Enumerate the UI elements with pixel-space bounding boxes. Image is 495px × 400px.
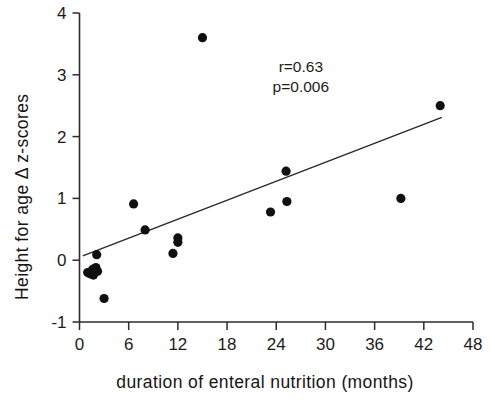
data-point [168, 249, 177, 258]
y-tick-label: -1 [51, 313, 66, 332]
x-tick-label: 18 [218, 335, 237, 354]
data-point [92, 250, 101, 259]
y-tick-label: 0 [57, 251, 66, 270]
chart-canvas: Height for age Δ z-scores duration of en… [0, 0, 495, 400]
y-tick-label: 1 [57, 189, 66, 208]
x-tick-label: 0 [75, 335, 84, 354]
y-axis-ticks: -101234 [51, 4, 79, 332]
data-point [140, 225, 149, 234]
y-tick-label: 4 [57, 4, 66, 23]
data-point [93, 267, 102, 276]
x-tick-label: 12 [168, 335, 187, 354]
x-tick-label: 6 [124, 335, 133, 354]
scatter-plot-figure: Height for age Δ z-scores duration of en… [0, 0, 495, 400]
correlation-coefficient: r=0.63 [279, 58, 323, 75]
data-point [129, 199, 138, 208]
statistics-annotations: r=0.63p=0.006 [273, 58, 329, 95]
data-point [436, 101, 445, 110]
y-tick-label: 3 [57, 66, 66, 85]
data-point [281, 167, 290, 176]
data-point [198, 33, 207, 42]
data-point [396, 194, 405, 203]
x-tick-label: 30 [316, 335, 335, 354]
data-point-series [83, 33, 445, 303]
regression-line [83, 117, 442, 255]
x-axis-title: duration of enteral nutrition (months) [116, 372, 413, 392]
data-point [266, 207, 275, 216]
data-point [173, 238, 182, 247]
regression-line-segment [83, 117, 442, 255]
p-value: p=0.006 [273, 78, 329, 95]
x-tick-label: 48 [464, 335, 483, 354]
x-tick-label: 36 [365, 335, 384, 354]
x-tick-label: 24 [267, 335, 286, 354]
y-axis-title: Height for age Δ z-scores [12, 94, 32, 301]
x-tick-label: 42 [414, 335, 433, 354]
data-point [282, 197, 291, 206]
data-point [99, 294, 108, 303]
x-axis-ticks: 0612182430364248 [75, 322, 483, 354]
y-tick-label: 2 [57, 128, 66, 147]
